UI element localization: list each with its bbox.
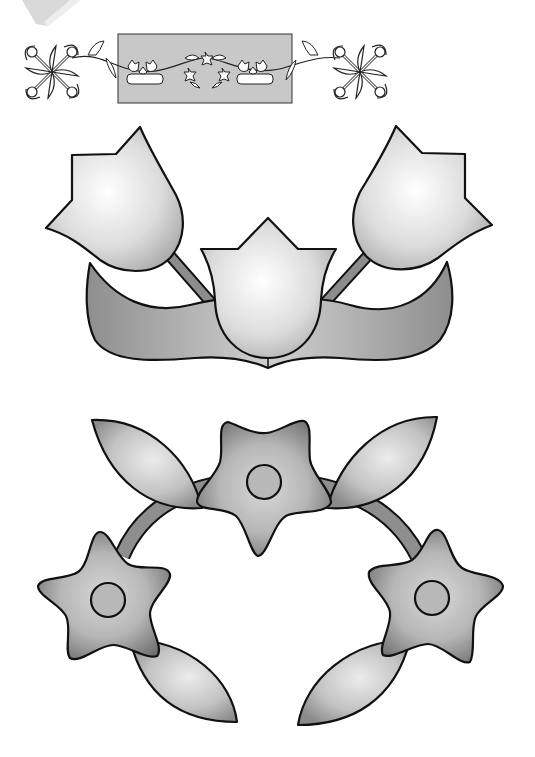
left-star-flower — [38, 532, 170, 659]
upper-right-leaf — [327, 417, 437, 508]
border-preview — [24, 34, 388, 103]
left-tulip — [46, 127, 183, 271]
right-knot-block — [332, 44, 388, 100]
center-star-flower — [197, 421, 331, 556]
left-flower-circle — [91, 583, 125, 617]
tulip-group — [46, 126, 492, 368]
upper-left-leaf — [92, 420, 202, 508]
right-star-flower — [369, 530, 503, 663]
left-knot-block — [24, 44, 80, 100]
right-flower-circle — [415, 581, 449, 615]
pattern-artwork — [0, 0, 535, 757]
star-flower-arc — [38, 417, 503, 725]
center-flower-circle — [247, 465, 281, 499]
right-tulip — [353, 126, 492, 269]
